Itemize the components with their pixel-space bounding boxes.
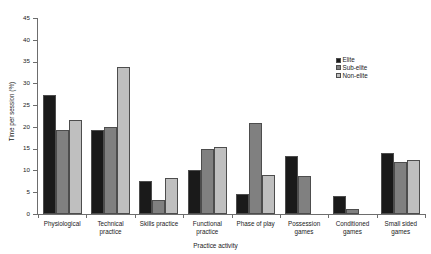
y-axis-tick [33,214,37,215]
bar [236,194,249,214]
bar [91,130,104,214]
bar [165,178,178,214]
y-axis-tick [33,127,37,128]
bar [262,175,275,214]
legend-item: Non-elite [336,73,368,79]
bar-chart: Time per session (%) 051015202530354045 … [0,0,431,254]
bar [333,196,346,214]
bar-group [232,18,280,214]
x-axis-tick [377,214,378,218]
bar-group [86,18,134,214]
bar [249,123,262,214]
y-axis-tick-label: 10 [0,167,30,173]
y-axis-tick [33,18,37,19]
bar [104,127,117,214]
bar [346,209,359,214]
bar [139,181,152,214]
bar [56,130,69,214]
legend-swatch-icon [336,58,341,63]
bar [69,120,82,214]
bar-group [280,18,328,214]
legend-label: Non-elite [343,73,368,79]
x-axis-category-label: Physiological [38,220,86,244]
y-axis-tick-label: 25 [0,102,30,108]
x-axis-tick [328,214,329,218]
chart-legend: EliteSub-eliteNon-elite [336,57,368,79]
x-axis-category-label: Skills practice [135,220,183,244]
plot-area [38,18,425,214]
y-axis-tick [33,62,37,63]
bar [117,67,130,214]
x-axis-category-label: Functional practice [183,220,231,244]
x-axis-title: Practice activity [0,242,431,249]
bar [214,147,227,214]
legend-label: Sub-elite [343,65,368,71]
bar-group [377,18,425,214]
x-axis-tick [280,214,281,218]
y-axis-tick-label: 40 [0,37,30,43]
legend-item: Elite [336,57,368,63]
bar [285,156,298,214]
x-axis-tick [86,214,87,218]
bar [152,200,165,214]
legend-item: Sub-elite [336,65,368,71]
y-axis-tick [33,83,37,84]
x-axis-category-label: Conditioned games [328,220,376,244]
y-axis-tick-label: 5 [0,189,30,195]
bar [394,162,407,214]
y-axis-tick [33,105,37,106]
x-axis-tick [38,214,39,218]
x-axis-category-label: Possession games [280,220,328,244]
y-axis-tick-label: 30 [0,80,30,86]
y-axis-tick-label: 45 [0,15,30,21]
x-axis-tick [135,214,136,218]
y-axis-tick [33,170,37,171]
x-axis-tick [183,214,184,218]
bar-group [183,18,231,214]
bar [43,95,56,214]
x-axis-tick [425,214,426,218]
legend-swatch-icon [336,65,341,70]
y-axis-tick-label: 35 [0,58,30,64]
legend-label: Elite [343,57,355,63]
legend-swatch-icon [336,73,341,78]
y-axis-tick [33,149,37,150]
bar [201,149,214,214]
x-axis-category-label: Phase of play [232,220,280,244]
y-axis-tick [33,192,37,193]
bar [381,153,394,214]
y-axis-tick-label: 20 [0,124,30,130]
x-axis-category-label: Small sided games [377,220,425,244]
bar-group [135,18,183,214]
bar [298,176,311,214]
x-axis-category-labels: PhysiologicalTechnical practiceSkills pr… [38,220,425,244]
x-axis-category-label: Technical practice [86,220,134,244]
y-axis-tick-label: 0 [0,211,30,217]
bar-group [38,18,86,214]
y-axis-tick-label: 15 [0,145,30,151]
bar-group [328,18,376,214]
x-axis-tick [232,214,233,218]
bar [188,170,201,214]
bar [407,160,420,214]
y-axis-tick [33,40,37,41]
